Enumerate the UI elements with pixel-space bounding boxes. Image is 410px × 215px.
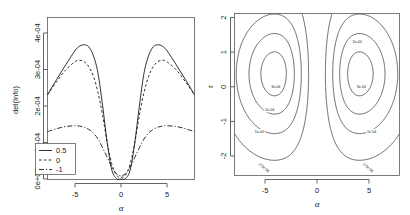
x-tick-label-neg5: -5 xyxy=(262,186,269,195)
line-chart-svg: 0e+00 1e-04 2e-04 3e-04 4e-04 det(Info) … xyxy=(0,0,205,215)
y-tick-label-2: 2 xyxy=(219,15,228,19)
legend-label-2: -1 xyxy=(56,165,63,174)
x-tick-label-5: 5 xyxy=(165,190,169,199)
y-axis-title-left: det(Info) xyxy=(11,86,20,114)
panel-contour-chart: 2 1 0 -1 -2 τ -5 0 5 α 3e-043e-043e-043e… xyxy=(205,0,410,215)
contour-level-2 xyxy=(249,34,385,115)
contour-label-1: 3e-04 xyxy=(357,85,366,89)
x-tick-label-0: 0 xyxy=(315,186,319,195)
contour-level-0 xyxy=(235,14,400,161)
contour-label-3: 2e-04 xyxy=(353,40,362,44)
legend-label-1: 0 xyxy=(56,156,60,165)
y-tick-label-neg1: -1 xyxy=(219,118,228,125)
y-tick-label-2: 2e-04 xyxy=(33,96,42,115)
contour-chart-svg: 2 1 0 -1 -2 τ -5 0 5 α 3e-043e-043e-043e… xyxy=(205,0,410,215)
x-tick-label-neg5: -5 xyxy=(72,190,79,199)
x-axis-title-right: α xyxy=(315,199,320,209)
contour-level-3 xyxy=(261,52,373,96)
x-axis-title-left: α xyxy=(119,203,124,213)
y-tick-label-1: 1 xyxy=(219,50,228,54)
x-tick-label-0: 0 xyxy=(119,190,123,199)
contour-group xyxy=(235,14,400,161)
x-tick-label-5: 5 xyxy=(367,186,371,195)
y-tick-label-0: 0 xyxy=(219,85,228,89)
x-axis-right: -5 0 5 xyxy=(262,180,371,196)
figure-container: 0e+00 1e-04 2e-04 3e-04 4e-04 det(Info) … xyxy=(0,0,410,215)
contour-label-2: 2e-04 xyxy=(265,108,274,112)
legend-label-0: 0.5 xyxy=(56,146,66,155)
contour-label-0: 3e-04 xyxy=(271,85,280,89)
contour-label-group: 3e-043e-043e-043e-042e-042e-042e-042e-04… xyxy=(255,40,377,173)
contour-label-6: 2.5e-05 xyxy=(258,162,270,173)
contour-level-1 xyxy=(236,14,398,134)
x-axis-left: -5 0 5 xyxy=(72,184,169,200)
panel-line-chart: 0e+00 1e-04 2e-04 3e-04 4e-04 det(Info) … xyxy=(0,0,205,215)
y-axis-right: 2 1 0 -1 -2 xyxy=(219,15,235,159)
legend: 0.5 0 -1 xyxy=(36,144,76,175)
plot-frame-right xyxy=(235,14,400,176)
y-axis-title-right: τ xyxy=(205,85,215,89)
contour-label-4: 1e-04 xyxy=(255,130,264,134)
y-tick-label-3: 3e-04 xyxy=(33,60,42,79)
contour-label-7: 2.5e-05 xyxy=(362,162,374,173)
y-tick-label-neg2: -2 xyxy=(219,153,228,160)
contour-label-5: 1e-04 xyxy=(367,130,376,134)
y-tick-label-4: 4e-04 xyxy=(33,23,42,42)
